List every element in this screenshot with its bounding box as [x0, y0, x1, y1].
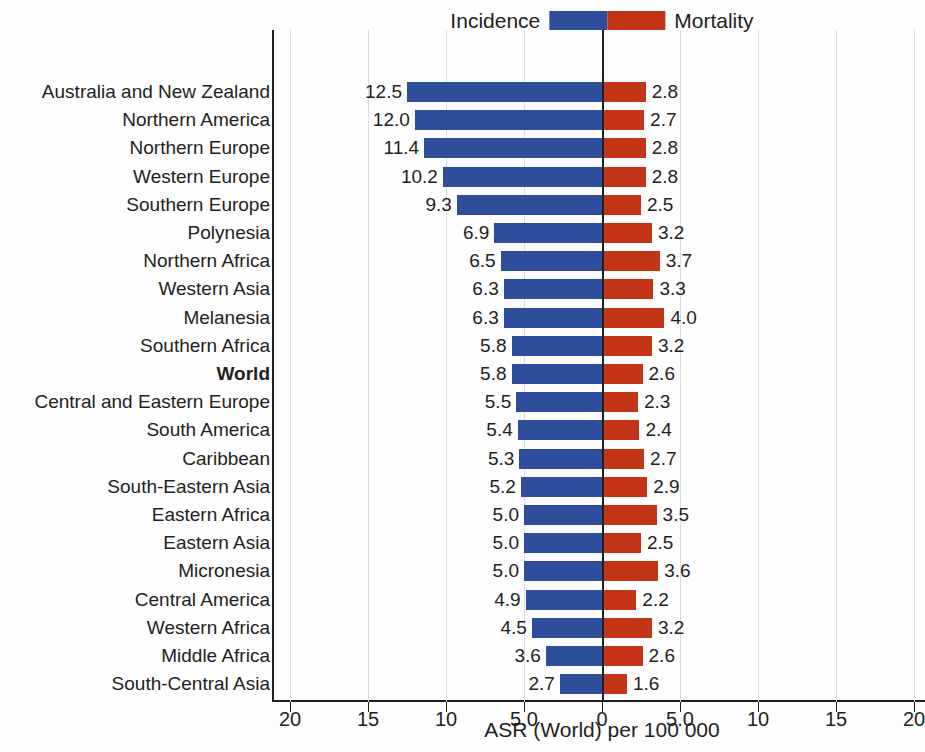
category-label: Southern Europe — [126, 194, 270, 216]
category-label: Northern America — [122, 109, 270, 131]
chart-row: World5.82.6 — [272, 360, 925, 388]
category-label: Melanesia — [183, 307, 270, 329]
value-label-mortality: 2.7 — [650, 109, 676, 131]
bar-incidence — [524, 533, 602, 553]
bar-incidence — [415, 110, 602, 130]
bar-incidence — [518, 420, 602, 440]
chart-row: Central and Eastern Europe5.52.3 — [272, 388, 925, 416]
value-label-incidence: 6.3 — [472, 278, 498, 300]
value-label-incidence: 5.0 — [493, 560, 519, 582]
legend-swatch-mortality — [607, 11, 665, 30]
value-label-mortality: 1.6 — [633, 673, 659, 695]
category-label: South-Eastern Asia — [107, 476, 270, 498]
bar-mortality — [602, 138, 646, 158]
bar-mortality — [602, 505, 657, 525]
bar-incidence — [516, 392, 602, 412]
value-label-mortality: 3.2 — [658, 617, 684, 639]
chart-row: South-Central Asia2.71.6 — [272, 670, 925, 698]
bar-mortality — [602, 590, 636, 610]
axis-line-zero — [602, 30, 604, 702]
bar-incidence — [524, 561, 602, 581]
value-label-incidence: 12.0 — [373, 109, 410, 131]
legend-label-mortality: Mortality — [674, 10, 753, 31]
bar-incidence — [407, 82, 602, 102]
chart-row: Southern Africa5.83.2 — [272, 332, 925, 360]
bar-mortality — [602, 618, 652, 638]
axis-tick-label: 20 — [279, 708, 301, 731]
bar-incidence — [532, 618, 602, 638]
chart-row: Micronesia5.03.6 — [272, 557, 925, 585]
category-label: Micronesia — [178, 560, 270, 582]
category-label: Eastern Asia — [163, 532, 270, 554]
category-label: Western Asia — [158, 278, 270, 300]
value-label-mortality: 3.3 — [659, 278, 685, 300]
value-label-incidence: 6.5 — [469, 250, 495, 272]
value-label-incidence: 3.6 — [514, 645, 540, 667]
bar-mortality — [602, 477, 647, 497]
legend-label-incidence: Incidence — [450, 10, 540, 31]
axis-tick-label: 10 — [435, 708, 457, 731]
value-label-mortality: 2.3 — [644, 391, 670, 413]
value-label-mortality: 2.6 — [649, 363, 675, 385]
chart-row: Middle Africa3.62.6 — [272, 642, 925, 670]
category-label: Central America — [135, 589, 270, 611]
legend-swatch-incidence — [549, 11, 607, 30]
value-label-mortality: 3.6 — [664, 560, 690, 582]
value-label-incidence: 10.2 — [401, 166, 438, 188]
chart-row: Polynesia6.93.2 — [272, 219, 925, 247]
value-label-incidence: 6.3 — [472, 307, 498, 329]
bar-incidence — [504, 308, 602, 328]
bar-incidence — [443, 167, 602, 187]
value-label-mortality: 2.2 — [642, 589, 668, 611]
value-label-incidence: 4.5 — [500, 617, 526, 639]
chart-row: Australia and New Zealand12.52.8 — [272, 78, 925, 106]
value-label-mortality: 3.2 — [658, 335, 684, 357]
chart-row: Melanesia6.34.0 — [272, 304, 925, 332]
bar-incidence — [560, 674, 602, 694]
bar-mortality — [602, 82, 646, 102]
category-label: Caribbean — [182, 448, 270, 470]
bar-mortality — [602, 561, 658, 581]
axis-tick-label: 10 — [747, 708, 769, 731]
value-label-incidence: 4.9 — [494, 589, 520, 611]
chart-row: Western Europe10.22.8 — [272, 163, 925, 191]
chart-row: Northern America12.02.7 — [272, 106, 925, 134]
value-label-mortality: 2.5 — [647, 532, 673, 554]
value-label-incidence: 5.8 — [480, 363, 506, 385]
value-label-mortality: 2.8 — [652, 81, 678, 103]
value-label-mortality: 2.8 — [652, 166, 678, 188]
bar-mortality — [602, 449, 644, 469]
value-label-incidence: 11.4 — [384, 137, 420, 159]
category-label: Central and Eastern Europe — [34, 391, 270, 413]
value-label-mortality: 2.4 — [645, 419, 671, 441]
axis-tick-label: 20 — [903, 708, 925, 731]
category-label: Western Africa — [147, 617, 270, 639]
bar-incidence — [424, 138, 602, 158]
bar-mortality — [602, 392, 638, 412]
chart-row: Eastern Asia5.02.5 — [272, 529, 925, 557]
value-label-mortality: 2.5 — [647, 194, 673, 216]
chart-row: Eastern Africa5.03.5 — [272, 501, 925, 529]
chart-row: Western Africa4.53.2 — [272, 614, 925, 642]
bar-incidence — [512, 336, 602, 356]
chart-page: Incidence Mortality Australia and New Ze… — [0, 0, 925, 752]
value-label-mortality: 2.8 — [652, 137, 678, 159]
bar-mortality — [602, 223, 652, 243]
chart-row: Western Asia6.33.3 — [272, 275, 925, 303]
bar-incidence — [501, 251, 602, 271]
category-label: Northern Europe — [130, 137, 270, 159]
category-label: Polynesia — [188, 222, 270, 244]
bar-incidence — [457, 195, 602, 215]
axis-line-bottom — [272, 700, 925, 702]
category-label: South America — [146, 419, 270, 441]
value-label-incidence: 12.5 — [365, 81, 402, 103]
value-label-mortality: 2.7 — [650, 448, 676, 470]
value-label-incidence: 2.7 — [528, 673, 554, 695]
value-label-incidence: 5.4 — [486, 419, 512, 441]
value-label-incidence: 5.8 — [480, 335, 506, 357]
plot-area: Australia and New Zealand12.52.8Northern… — [272, 30, 925, 702]
bar-incidence — [546, 646, 602, 666]
bar-incidence — [504, 279, 602, 299]
bar-incidence — [494, 223, 602, 243]
value-label-incidence: 5.5 — [485, 391, 511, 413]
